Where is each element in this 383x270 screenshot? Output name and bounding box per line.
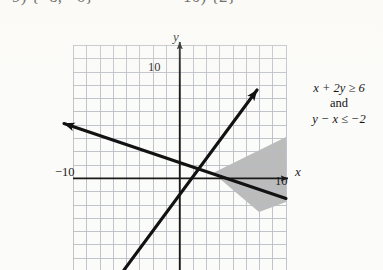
inequality-conjunction: and [295,96,383,111]
x-axis-label: x [295,164,301,180]
y-axis-label: y [173,29,179,45]
coordinate-plane [0,28,383,270]
previous-answer-10: 10) {2} [183,0,236,7]
previous-answers-strip: 9) {−8, −6} 10) {2} [0,0,383,16]
inequality-first: x + 2y ≥ 6 [295,81,383,96]
page-background [0,28,383,270]
graph-figure: y x 10 −10 10 x + 2y ≥ 6 and y − x ≤ −2 [0,28,383,270]
tick-label-x-negative-10: −10 [55,165,75,180]
inequality-annotation: x + 2y ≥ 6 and y − x ≤ −2 [295,81,383,127]
previous-answer-9: 9) {−8, −6} [12,0,94,7]
inequality-second: y − x ≤ −2 [295,112,383,127]
tick-label-x-10: 10 [275,174,288,189]
tick-label-y-10: 10 [148,60,161,75]
